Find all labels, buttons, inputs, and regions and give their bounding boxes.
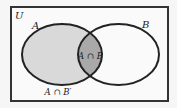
set-a-label: A (31, 20, 39, 31)
intersection-label: A ∩ B (77, 51, 103, 61)
venn-diagram: U A B A ∩ B A ∩ B′ (0, 0, 177, 108)
a-only-label: A ∩ B′ (44, 87, 72, 97)
set-b-label: B (141, 19, 149, 30)
universe-label: U (15, 10, 24, 21)
